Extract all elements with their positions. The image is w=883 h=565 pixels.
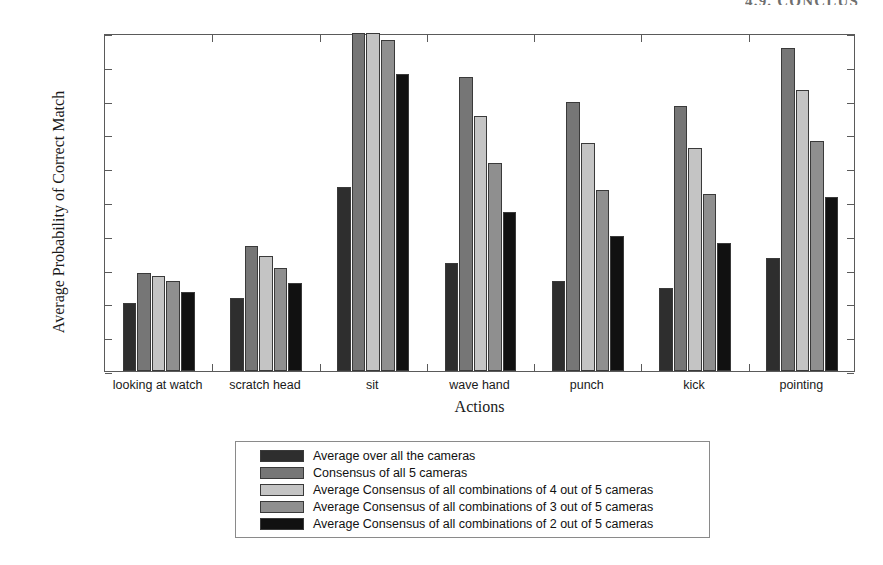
x-axis-title: Actions <box>104 398 855 416</box>
y-axis-tick-right <box>847 103 854 104</box>
bar <box>245 246 259 371</box>
bar <box>230 298 244 371</box>
bar <box>259 256 273 371</box>
y-axis-tick-right <box>847 238 854 239</box>
bar <box>674 106 688 371</box>
bar <box>366 33 380 371</box>
bar <box>766 258 780 371</box>
y-axis-tick-right <box>847 373 854 374</box>
legend-swatch <box>260 518 304 530</box>
bar <box>459 77 473 371</box>
x-axis-tick-top <box>641 35 642 42</box>
y-axis-tick <box>105 136 112 137</box>
bar <box>381 40 395 371</box>
bar <box>810 141 824 371</box>
bar <box>703 194 717 371</box>
bar <box>337 187 351 371</box>
bar <box>688 148 702 371</box>
x-axis-category-label: scratch head <box>229 378 301 392</box>
x-axis-category-label: sit <box>366 378 379 392</box>
legend-item[interactable]: Average Consensus of all combinations of… <box>242 498 703 515</box>
bar <box>274 268 288 371</box>
legend-label: Average Consensus of all combinations of… <box>313 517 653 531</box>
y-axis-tick-right <box>847 170 854 171</box>
bar <box>445 263 459 371</box>
y-axis-tick-right <box>847 272 854 273</box>
x-axis-tick-top <box>534 35 535 42</box>
bar <box>825 197 839 371</box>
y-axis-tick-right <box>847 35 854 36</box>
legend-item[interactable]: Average over all the cameras <box>242 447 703 464</box>
bar <box>659 288 673 371</box>
y-axis-title: Average Probability of Correct Match <box>50 32 68 392</box>
legend-label: Average Consensus of all combinations of… <box>313 500 653 514</box>
bar <box>596 190 610 371</box>
bar <box>488 163 502 371</box>
bar <box>288 283 302 371</box>
y-axis-tick-right <box>847 339 854 340</box>
x-axis-tick-top <box>427 35 428 42</box>
legend-item[interactable]: Average Consensus of all combinations of… <box>242 515 703 532</box>
legend-label: Average Consensus of all combinations of… <box>313 483 653 497</box>
y-axis-tick <box>105 103 112 104</box>
y-axis-tick <box>105 305 112 306</box>
bar <box>796 90 810 371</box>
bar <box>352 33 366 371</box>
bar <box>474 116 488 371</box>
legend-item[interactable]: Consensus of all 5 cameras <box>242 464 703 481</box>
x-axis-tick <box>749 364 750 371</box>
y-axis-tick-right <box>847 136 854 137</box>
y-axis-tick <box>105 373 112 374</box>
x-axis-tick <box>427 364 428 371</box>
y-axis-tick <box>105 170 112 171</box>
x-axis-tick <box>320 364 321 371</box>
bar <box>123 303 137 371</box>
chart-legend: Average over all the camerasConsensus of… <box>235 441 710 538</box>
x-axis-tick-top <box>212 35 213 42</box>
y-axis-tick <box>105 238 112 239</box>
bar <box>137 273 151 371</box>
bar <box>566 102 580 371</box>
plot-area: 00.10.20.30.40.50.60.70.80.91 <box>104 34 855 372</box>
bar <box>781 48 795 371</box>
legend-swatch <box>260 501 304 513</box>
x-axis-category-label: looking at watch <box>113 378 203 392</box>
legend-label: Consensus of all 5 cameras <box>313 466 467 480</box>
legend-swatch <box>260 450 304 462</box>
y-axis-tick <box>105 272 112 273</box>
y-axis-tick <box>105 339 112 340</box>
y-axis-tick <box>105 69 112 70</box>
x-axis-category-label: kick <box>683 378 705 392</box>
x-axis-tick <box>212 364 213 371</box>
y-axis-tick-right <box>847 69 854 70</box>
bar <box>552 281 566 371</box>
plot-inner: 00.10.20.30.40.50.60.70.80.91 <box>105 35 854 371</box>
bar <box>503 212 517 371</box>
bar <box>610 236 624 371</box>
legend-swatch <box>260 467 304 479</box>
bar <box>717 243 731 371</box>
y-axis-tick-right <box>847 204 854 205</box>
x-axis-tick <box>534 364 535 371</box>
bar <box>152 276 166 371</box>
legend-label: Average over all the cameras <box>313 449 475 463</box>
x-axis-tick-top <box>320 35 321 42</box>
x-axis-tick-top <box>749 35 750 42</box>
x-axis-category-label: pointing <box>779 378 823 392</box>
bar <box>166 281 180 371</box>
y-axis-tick-right <box>847 305 854 306</box>
y-axis-tick <box>105 35 112 36</box>
legend-swatch <box>260 484 304 496</box>
bar <box>181 292 195 371</box>
x-axis-category-label: punch <box>570 378 604 392</box>
x-axis-tick <box>641 364 642 371</box>
legend-item[interactable]: Average Consensus of all combinations of… <box>242 481 703 498</box>
bar <box>396 74 410 371</box>
y-axis-tick <box>105 204 112 205</box>
bar-chart-figure: Average Probability of Correct Match Act… <box>0 0 883 565</box>
bar <box>581 143 595 371</box>
x-axis-category-label: wave hand <box>449 378 509 392</box>
